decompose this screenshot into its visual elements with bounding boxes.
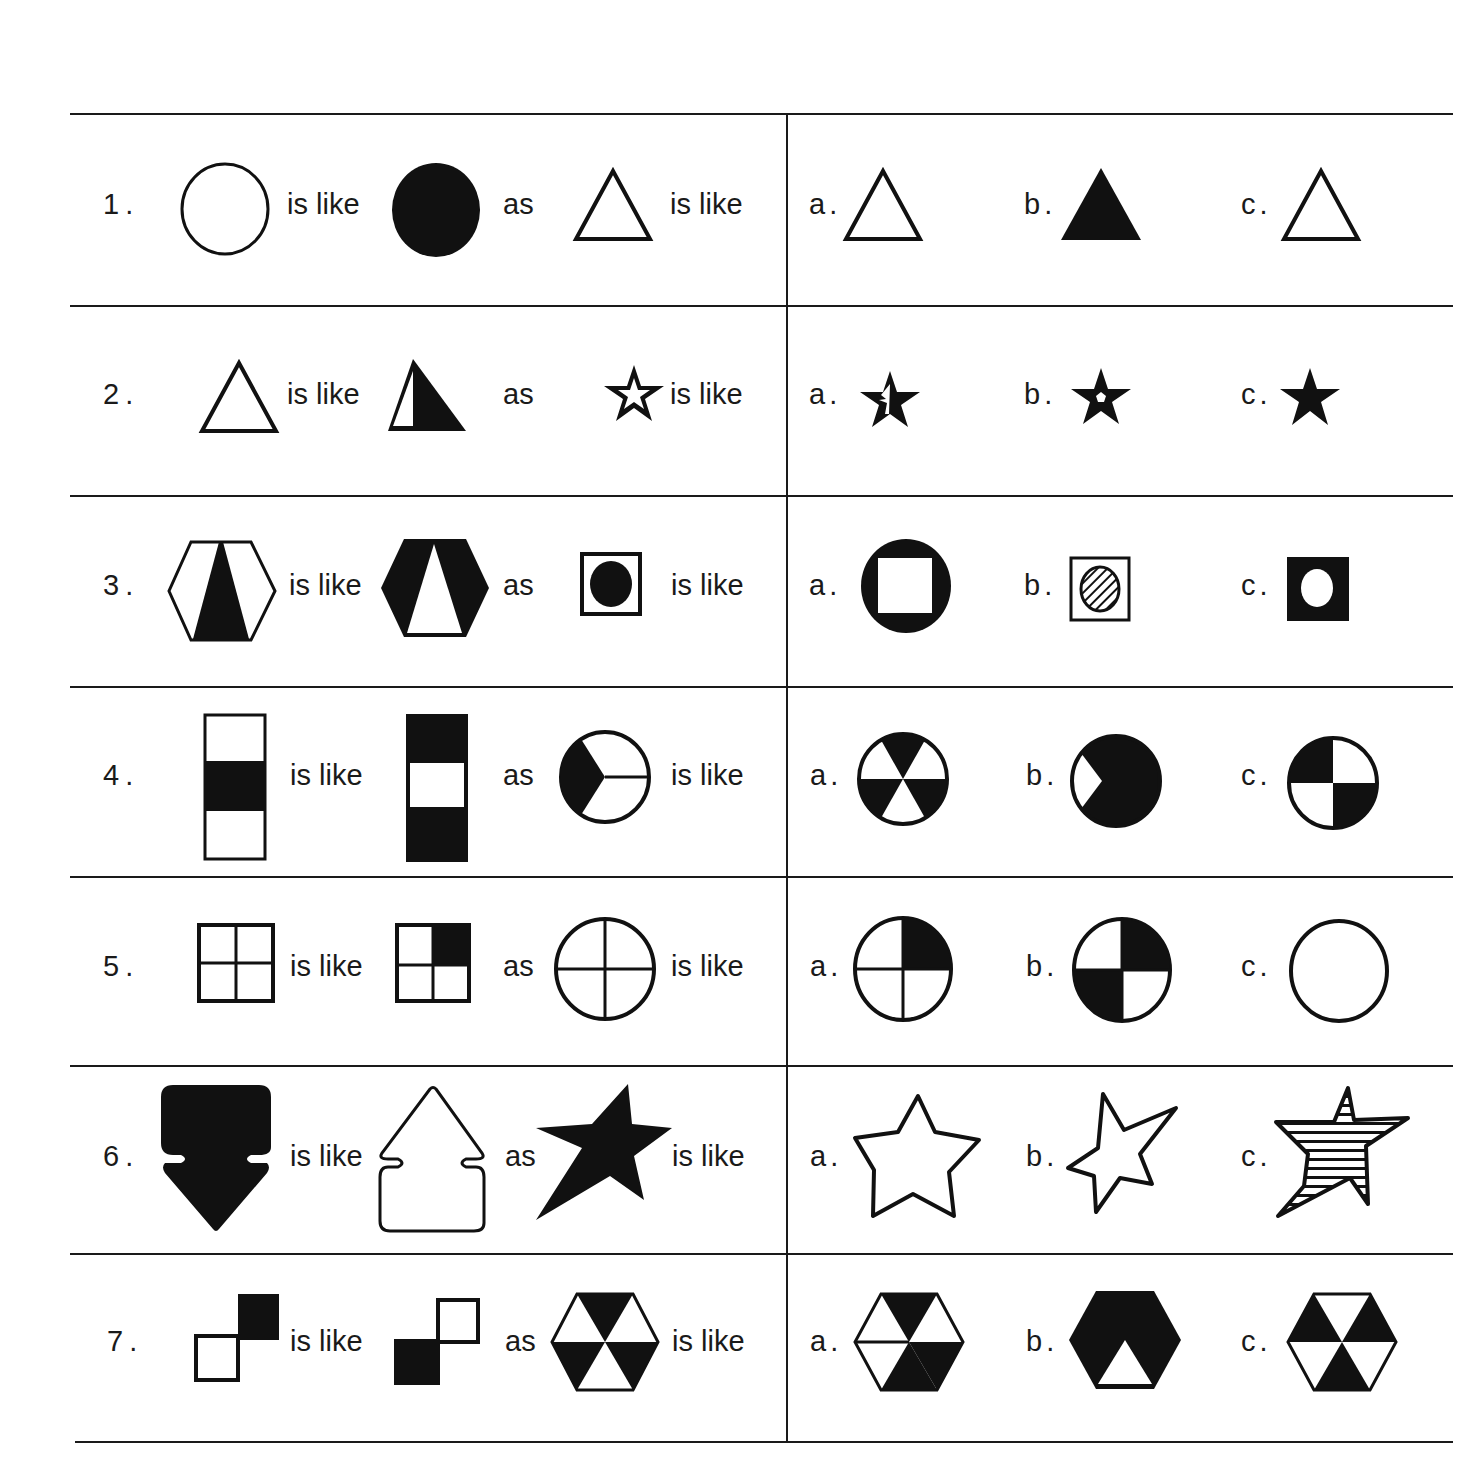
circle-quartered-icon <box>553 916 657 1022</box>
as-label: as <box>503 378 534 410</box>
bar-black-middle-icon <box>203 713 267 861</box>
row-divider <box>70 686 1453 688</box>
is-like-label: is like <box>671 569 744 601</box>
circle-quarter-filled-icon <box>852 915 954 1023</box>
black-square-white-circle-icon <box>1287 557 1349 621</box>
open-triangle-icon <box>573 168 653 242</box>
option-label: b. <box>1024 378 1056 410</box>
black-circle-white-wedge-icon <box>1070 734 1162 828</box>
black-hexagon-white-triangle-icon <box>1068 1290 1182 1390</box>
hexagon-black-wedge-icon <box>167 540 277 642</box>
is-like-label: is like <box>287 188 360 220</box>
filled-triangle-icon <box>1060 167 1142 241</box>
is-like-label: is like <box>290 950 363 982</box>
hexagon-mixed-triangles-icon <box>853 1292 965 1392</box>
square-hatched-circle-icon <box>1069 556 1131 622</box>
column-divider <box>786 113 788 1443</box>
filled-star-icon <box>1279 367 1341 427</box>
star-small-hole-icon <box>1070 367 1132 425</box>
option-label: a. <box>809 378 841 410</box>
is-like-label: is like <box>287 378 360 410</box>
option-label: b. <box>1026 1325 1058 1357</box>
hexagon-alternating-triangles-icon <box>550 1292 660 1392</box>
circle-three-sectors-icon <box>558 729 652 825</box>
option-label: a. <box>810 950 842 982</box>
option-label: a. <box>810 1325 842 1357</box>
bar-white-middle-icon <box>406 714 470 862</box>
is-like-label: is like <box>672 1140 745 1172</box>
is-like-label: is like <box>670 188 743 220</box>
as-label: as <box>503 188 534 220</box>
outline-up-arrow-icon <box>376 1085 488 1235</box>
open-triangle-icon <box>1281 168 1361 242</box>
question-number: 4. <box>103 759 139 791</box>
row-divider <box>70 305 1453 307</box>
open-triangle-icon <box>199 360 279 434</box>
outline-star-tilted-icon <box>1066 1092 1220 1216</box>
option-label: b. <box>1026 950 1058 982</box>
circle-diagonal-quarters-icon <box>1071 916 1173 1024</box>
as-label: as <box>505 1325 536 1357</box>
hexagon-white-wedge-icon <box>380 538 490 638</box>
is-like-label: is like <box>671 759 744 791</box>
filled-tilted-star-icon <box>534 1084 674 1222</box>
square-with-black-circle-icon <box>580 552 642 616</box>
question-number: 5. <box>103 950 139 982</box>
option-label: c. <box>1241 1140 1272 1172</box>
as-label: as <box>503 950 534 982</box>
option-label: c. <box>1241 378 1272 410</box>
option-label: c. <box>1241 1325 1272 1357</box>
question-number: 6. <box>103 1140 139 1172</box>
as-label: as <box>503 569 534 601</box>
question-number: 2. <box>103 378 139 410</box>
is-like-label: is like <box>290 759 363 791</box>
half-filled-triangle-icon <box>386 357 468 433</box>
open-triangle-icon <box>843 168 923 242</box>
star-half-open-icon <box>859 370 921 428</box>
is-like-label: is like <box>671 950 744 982</box>
question-number: 1. <box>103 188 139 220</box>
option-label: b. <box>1026 759 1058 791</box>
option-label: a. <box>809 569 841 601</box>
circle-quarters-diagonal-icon <box>1287 736 1379 830</box>
option-label: c. <box>1241 759 1272 791</box>
is-like-label: is like <box>289 569 362 601</box>
row-divider <box>70 1253 1453 1255</box>
two-squares-bottom-black-icon <box>394 1297 482 1387</box>
option-label: b. <box>1026 1140 1058 1172</box>
as-label: as <box>505 1140 536 1172</box>
option-label: b. <box>1024 188 1056 220</box>
square-quartered-icon <box>197 923 275 1003</box>
is-like-label: is like <box>290 1325 363 1357</box>
outline-star-upright-icon <box>853 1094 987 1220</box>
row-divider <box>70 1065 1453 1067</box>
two-squares-top-black-icon <box>193 1294 281 1384</box>
option-label: c. <box>1241 950 1272 982</box>
filled-down-arrow-icon <box>159 1083 275 1233</box>
question-number: 7. <box>107 1325 143 1357</box>
circle-six-sectors-icon <box>857 732 949 826</box>
is-like-label: is like <box>670 378 743 410</box>
row-divider <box>70 876 1453 878</box>
hexagon-inverted-triangles-icon <box>1286 1292 1398 1392</box>
option-label: a. <box>809 188 841 220</box>
question-number: 3. <box>103 569 139 601</box>
plain-circle-icon <box>1288 918 1390 1024</box>
row-divider <box>70 495 1453 497</box>
is-like-label: is like <box>290 1140 363 1172</box>
option-label: c. <box>1241 569 1272 601</box>
filled-circle-icon <box>391 162 481 258</box>
is-like-label: is like <box>672 1325 745 1357</box>
option-label: b. <box>1024 569 1056 601</box>
black-circle-white-square-icon <box>860 539 952 634</box>
option-label: a. <box>810 1140 842 1172</box>
table-top-border <box>70 113 1453 115</box>
option-label: c. <box>1241 188 1272 220</box>
striped-star-icon <box>1274 1086 1410 1220</box>
square-quarter-filled-icon <box>395 923 471 1003</box>
open-circle-icon <box>180 162 270 256</box>
table-bottom-border <box>75 1441 1453 1443</box>
as-label: as <box>503 759 534 791</box>
option-label: a. <box>810 759 842 791</box>
open-center-star-icon <box>603 364 665 422</box>
